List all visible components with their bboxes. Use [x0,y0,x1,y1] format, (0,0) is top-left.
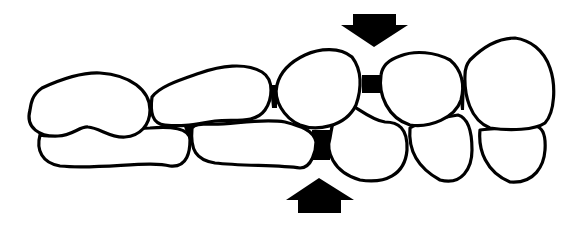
upper-tooth-1 [29,73,150,137]
lower-tooth-5 [480,126,545,182]
lower-tooth-2 [192,121,316,168]
upper-tooth-5 [465,38,554,130]
down-arrow-icon [341,14,408,47]
upper-tooth-2 [151,66,271,126]
up-arrow-icon [286,178,354,213]
upper-tooth-3 [276,50,360,128]
diagram-canvas [0,0,572,226]
gap-fill-upper-center [362,75,381,93]
upper-tooth-4 [380,53,462,126]
dental-occlusion-diagram [0,0,572,226]
